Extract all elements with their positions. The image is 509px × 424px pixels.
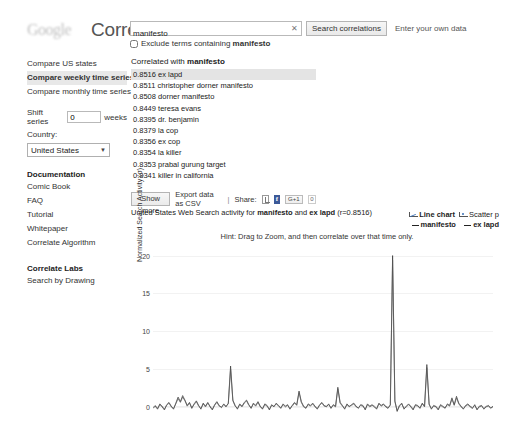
sidebar-item-tutorial[interactable]: Tutorial [27, 208, 127, 222]
shift-series-label: Shift series [27, 108, 64, 126]
sidebar-item-compare-weekly-time-series[interactable]: Compare weekly time series [27, 71, 127, 85]
sidebar-item-faq[interactable]: FAQ [27, 194, 127, 208]
tab-line-chart[interactable]: Line chart [409, 210, 455, 219]
search-box[interactable]: ✕ [130, 21, 302, 36]
facebook-icon[interactable]: f [274, 195, 280, 204]
chart-line-manifesto [153, 256, 493, 412]
result-term: christopher dorner manifesto [157, 81, 252, 90]
result-term: dr. benjamin [158, 115, 199, 124]
y-axis-tick: 20 [142, 252, 150, 259]
sidebar: Compare US states Compare weekly time se… [27, 57, 127, 288]
results-panel: Correlated with manifesto 0.8516 ex lapd… [131, 57, 316, 208]
result-term: prabal gurung target [158, 160, 226, 169]
country-select-value: United States [31, 146, 79, 155]
google-plus-icon[interactable]: G+1 [285, 195, 303, 204]
search-correlations-button[interactable]: Search correlations [306, 21, 387, 36]
result-row[interactable]: 0.8395 dr. benjamin [131, 114, 316, 125]
result-row[interactable]: 0.8508 dorner manifesto [131, 91, 316, 102]
page-header: Google Correlate ✕ Search correlations E… [0, 0, 509, 50]
chart-title-join: and [293, 208, 310, 217]
result-row[interactable]: 0.8379 la cop [131, 125, 316, 136]
chart-title-term-b: ex lapd [309, 208, 335, 217]
exclude-terms-checkbox[interactable] [130, 40, 138, 48]
chart-series-svg [153, 248, 493, 416]
result-value: 0.8379 [133, 126, 156, 135]
result-row[interactable]: 0.8511 christopher dorner manifesto [131, 80, 316, 91]
country-select[interactable]: United States ▼ [27, 143, 110, 157]
chart-title-term-a: manifesto [257, 208, 292, 217]
shift-series-unit: weeks [104, 113, 127, 122]
chart-type-toggle: Line chart Scatter p [409, 210, 499, 219]
documentation-heading: Documentation [27, 170, 127, 179]
result-value: 0.8354 [133, 148, 156, 157]
chart-legend: manifesto ex lapd [409, 220, 499, 229]
sidebar-item-search-by-drawing[interactable]: Search by Drawing [27, 274, 127, 288]
results-heading: Correlated with manifesto [131, 57, 316, 66]
exclude-term: manifesto [233, 39, 271, 48]
result-term: la cop [158, 126, 178, 135]
result-value: 0.8395 [133, 115, 156, 124]
results-heading-prefix: Correlated with [131, 57, 187, 66]
share-label: Share: [234, 195, 256, 204]
clear-x-icon[interactable]: ✕ [291, 24, 298, 34]
result-term: killer in california [158, 171, 213, 180]
result-row[interactable]: 0.8354 la killer [131, 147, 316, 158]
y-axis-tick: 15 [142, 290, 150, 297]
chart-title-suffix: (r=0.8516) [335, 208, 372, 217]
chevron-down-icon: ▼ [100, 147, 106, 153]
result-row[interactable]: 0.8516 ex lapd [131, 69, 316, 80]
country-label: Country: [27, 130, 127, 139]
result-term: ex cop [158, 137, 180, 146]
chart-hint: Hint: Drag to Zoom, and then correlate o… [131, 232, 503, 241]
y-axis-tick: 0 [146, 403, 150, 410]
result-row[interactable]: 0.8353 prabal gurung target [131, 159, 316, 170]
result-term: teresa evans [158, 104, 201, 113]
tab-scatter-plot[interactable]: Scatter p [459, 210, 499, 219]
scatter-plot-icon [459, 211, 467, 218]
result-value: 0.8356 [133, 137, 156, 146]
legend-label-ex-lapd: ex lapd [473, 220, 499, 229]
result-row[interactable]: 0.8341 killer in california [131, 170, 316, 181]
shift-series-row: Shift series weeks [27, 108, 127, 126]
chart-plot-area[interactable]: Normalized Search Activity (σ) 05101520 [153, 248, 493, 416]
google-logo[interactable]: Google [27, 21, 85, 38]
legend-label-manifesto: manifesto [421, 220, 456, 229]
result-value: 0.8508 [133, 92, 156, 101]
correlated-terms-list: 0.8516 ex lapd 0.8511 christopher dorner… [131, 69, 316, 181]
y-axis-tick: 10 [142, 328, 150, 335]
result-term: dorner manifesto [158, 92, 214, 101]
legend-swatch-manifesto [412, 225, 419, 226]
chart-title-prefix: United States Web Search activity for [131, 208, 257, 217]
line-chart-icon [409, 211, 417, 218]
sidebar-item-compare-us-states[interactable]: Compare US states [27, 57, 127, 71]
y-axis-tick: 5 [146, 366, 150, 373]
enter-your-own-data-link[interactable]: Enter your own data [395, 21, 467, 36]
chart-panel: United States Web Search activity for ma… [131, 208, 503, 424]
correlate-labs-heading: Correlate Labs [27, 264, 127, 273]
results-actions: Show more Export data as CSV | Share: f … [131, 190, 316, 208]
result-row[interactable]: 0.8356 ex cop [131, 136, 316, 147]
result-term: ex lapd [158, 70, 182, 79]
sidebar-item-compare-monthly-time-series[interactable]: Compare monthly time series [27, 85, 127, 99]
sidebar-item-comic-book[interactable]: Comic Book [27, 180, 127, 194]
result-value: 0.8449 [133, 104, 156, 113]
sidebar-item-whitepaper[interactable]: Whitepaper [27, 222, 127, 236]
chart-line-ex-lapd [153, 260, 493, 411]
result-value: 0.8511 [133, 81, 155, 90]
google-plus-count[interactable]: 0 [308, 195, 316, 204]
exclude-prefix: Exclude terms containing [141, 39, 233, 48]
result-row[interactable]: 0.8449 teresa evans [131, 103, 316, 114]
sidebar-item-correlate-algorithm[interactable]: Correlate Algorithm [27, 236, 127, 250]
search-row: ✕ Search correlations Enter your own dat… [130, 21, 467, 36]
export-csv-link[interactable]: Export data as CSV [175, 190, 222, 208]
exclude-terms-label: Exclude terms containing manifesto [141, 39, 270, 48]
line-chart-label: Line chart [419, 210, 455, 219]
chart-controls: Line chart Scatter p manifesto ex lapd [409, 210, 499, 229]
legend-swatch-ex-lapd [464, 225, 471, 226]
twitter-icon[interactable] [262, 195, 269, 204]
exclude-terms-row[interactable]: Exclude terms containing manifesto [130, 39, 270, 48]
scatter-plot-label: Scatter p [469, 210, 499, 219]
result-term: la killer [158, 148, 181, 157]
shift-series-input[interactable] [67, 111, 101, 123]
result-value: 0.8516 [133, 70, 156, 79]
